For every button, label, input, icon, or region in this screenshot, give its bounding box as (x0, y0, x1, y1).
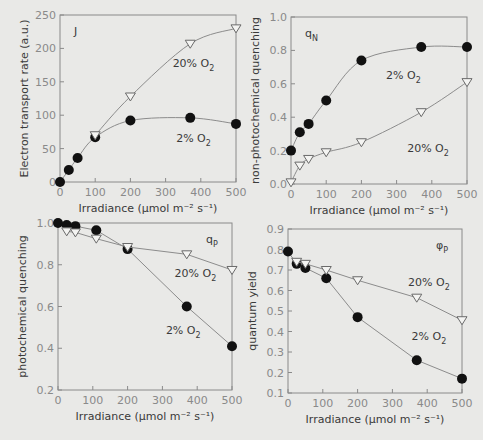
x-tick-label: 300 (386, 188, 407, 201)
y-tick-label: 0.8 (37, 259, 55, 272)
series-annotation-0: 20% O2 (175, 267, 217, 283)
x-tick-label: 100 (312, 397, 333, 410)
data-point-circle (55, 177, 65, 187)
series-annotation-0: 20% O2 (173, 57, 215, 73)
x-tick-label: 400 (187, 394, 208, 407)
data-point-triangle (462, 79, 472, 87)
y-tick-label: 0.2 (270, 145, 288, 158)
data-point-triangle (286, 179, 296, 187)
data-point-circle (416, 42, 426, 52)
data-point-circle (321, 96, 331, 106)
series-annotation-1-main: 2% O (166, 324, 196, 337)
panel-label-main: J (73, 25, 77, 38)
data-point-circle (227, 341, 237, 351)
x-tick-label: 500 (226, 186, 247, 199)
x-tick-label: 200 (351, 188, 372, 201)
x-tick-label: 400 (421, 188, 442, 201)
x-axis-title: Irradiance (µmol m⁻² s⁻¹) (306, 413, 445, 426)
data-point-triangle (356, 139, 366, 147)
figure: 0100200300400500050100150200250Irradianc… (0, 0, 483, 440)
data-point-circle (73, 153, 83, 163)
data-point-triangle (321, 267, 331, 275)
x-tick-label: 0 (288, 188, 295, 201)
chart-panel-1: 01002003004005000.00.20.40.60.81.0Irradi… (249, 11, 478, 217)
x-tick-label: 200 (117, 394, 138, 407)
y-tick-label: 0.5 (267, 305, 285, 318)
data-point-triangle (353, 277, 363, 285)
y-tick-label: 0.4 (267, 326, 285, 339)
x-tick-label: 400 (190, 186, 211, 199)
data-point-circle (295, 127, 305, 137)
series-annotation-0-main: 20% O (408, 276, 445, 289)
data-point-circle (125, 116, 135, 126)
data-point-circle (53, 218, 63, 228)
x-tick-label: 200 (347, 397, 368, 410)
x-tick-label: 100 (82, 394, 103, 407)
y-tick-label: 0.9 (267, 223, 285, 236)
data-point-circle (353, 312, 363, 322)
series-annotation-1-sub: 2 (206, 139, 211, 148)
series-annotation-0-main: 20% O (175, 267, 212, 280)
panel-label: J (73, 25, 77, 38)
data-point-triangle (321, 149, 331, 157)
series-annotation-1: 2% O2 (176, 132, 211, 148)
data-point-circle (185, 113, 195, 123)
series-line-1 (291, 82, 467, 182)
y-axis-title: Electron transport rate (a.u.) (18, 19, 31, 177)
panel-label: qP (206, 233, 218, 249)
series-annotation-1-sub: 2 (441, 337, 446, 346)
data-point-circle (462, 42, 472, 52)
y-tick-label: 150 (35, 76, 56, 89)
series-annotation-0-sub: 2 (209, 64, 214, 73)
data-point-triangle (295, 162, 305, 170)
data-point-circle (286, 146, 296, 156)
y-tick-label: 0.6 (37, 301, 55, 314)
y-tick-label: 0.4 (37, 342, 55, 355)
y-tick-label: 0.3 (267, 346, 285, 359)
x-tick-label: 500 (452, 397, 473, 410)
series-line-0 (60, 118, 236, 182)
data-point-circle (231, 119, 241, 129)
series-annotation-1-main: 2% O (176, 132, 206, 145)
y-tick-label: 0 (49, 176, 56, 189)
x-tick-label: 100 (85, 186, 106, 199)
series-annotation-0-sub: 2 (445, 283, 450, 292)
y-axis-title: photochemical quenching (16, 235, 29, 377)
x-axis-title: Irradiance (µmol m⁻² s⁻¹) (310, 204, 449, 217)
plot-frame (60, 15, 236, 182)
series-line-0 (288, 252, 462, 379)
series-annotation-1-main: 2% O (412, 330, 442, 343)
series-annotation-1: 2% O2 (412, 330, 447, 346)
y-tick-label: 0.2 (267, 367, 285, 380)
x-tick-label: 300 (155, 186, 176, 199)
x-tick-label: 300 (152, 394, 173, 407)
x-tick-label: 400 (417, 397, 438, 410)
panel-label-sub: P (443, 246, 448, 255)
x-tick-label: 100 (316, 188, 337, 201)
y-tick-label: 0.1 (267, 387, 285, 400)
series-annotation-1-main: 20% O (407, 142, 444, 155)
data-point-circle (304, 119, 314, 129)
data-point-triangle (412, 294, 422, 302)
series-line-1 (95, 28, 236, 135)
panel-label-main: φ (436, 239, 443, 252)
data-point-triangle (70, 229, 80, 237)
series-annotation-0-main: 2% O (386, 69, 416, 82)
y-axis-title: quantum yield (246, 271, 259, 351)
x-tick-label: 0 (57, 186, 64, 199)
y-tick-label: 50 (42, 143, 56, 156)
data-point-circle (356, 55, 366, 65)
y-tick-label: 1.0 (37, 217, 55, 230)
y-tick-label: 1.0 (270, 11, 288, 24)
data-point-triangle (185, 40, 195, 48)
panel-label-main: q (206, 233, 213, 246)
chart-panel-2: 01002003004005000.20.40.60.81.0Irradianc… (16, 217, 243, 423)
y-tick-label: 0.4 (270, 111, 288, 124)
series-annotation-0: 2% O2 (386, 69, 421, 85)
y-tick-label: 200 (35, 42, 56, 55)
data-point-circle (283, 247, 293, 257)
x-tick-label: 300 (382, 397, 403, 410)
series-annotation-0-sub: 2 (211, 274, 216, 283)
y-tick-label: 0.6 (270, 78, 288, 91)
y-tick-label: 0.0 (270, 178, 288, 191)
